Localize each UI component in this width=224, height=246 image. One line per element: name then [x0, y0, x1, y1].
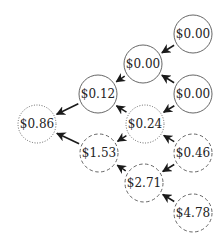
node-value-label: $0.00 — [176, 27, 210, 41]
nodes-group: $0.00$0.00$0.12$0.00$0.86$0.24$1.53$0.46… — [18, 15, 212, 232]
tree-node: $4.78 — [174, 194, 212, 232]
arrow-n6-to-n3 — [117, 106, 127, 112]
lattice-diagram: $0.00$0.00$0.12$0.00$0.86$0.24$1.53$0.46… — [0, 0, 224, 246]
tree-node: $0.86 — [18, 105, 56, 143]
node-value-label: $4.78 — [176, 206, 210, 220]
tree-node: $0.24 — [126, 105, 164, 143]
node-value-label: $2.71 — [127, 176, 161, 190]
node-value-label: $0.24 — [128, 117, 163, 131]
arrow-n10-to-n9 — [163, 195, 174, 202]
node-value-label: $0.00 — [176, 87, 210, 101]
node-value-label: $0.86 — [20, 117, 54, 131]
tree-node: $2.71 — [125, 164, 163, 202]
tree-node: $0.12 — [79, 75, 117, 113]
tree-node: $1.53 — [80, 134, 118, 172]
arrow-n4-to-n2 — [162, 75, 174, 82]
tree-node: $0.46 — [174, 134, 212, 172]
node-value-label: $0.12 — [81, 87, 115, 101]
tree-node: $0.00 — [174, 75, 212, 113]
arrow-n4-to-n6 — [164, 106, 175, 113]
arrow-n9-to-n7 — [117, 165, 125, 171]
node-value-label: $0.00 — [126, 57, 160, 71]
arrow-n7-to-n5 — [57, 133, 79, 143]
arrow-n8-to-n9 — [163, 165, 174, 172]
tree-node: $0.00 — [124, 45, 162, 83]
arrow-n2-to-n3 — [116, 76, 124, 82]
arrow-n8-to-n6 — [164, 135, 174, 141]
tree-node: $0.00 — [174, 15, 212, 53]
node-value-label: $0.46 — [176, 146, 210, 160]
arrow-n1-to-n2 — [162, 45, 174, 52]
arrow-n6-to-n7 — [118, 136, 127, 142]
arrow-n3-to-n5 — [57, 104, 79, 115]
node-value-label: $1.53 — [82, 146, 116, 160]
